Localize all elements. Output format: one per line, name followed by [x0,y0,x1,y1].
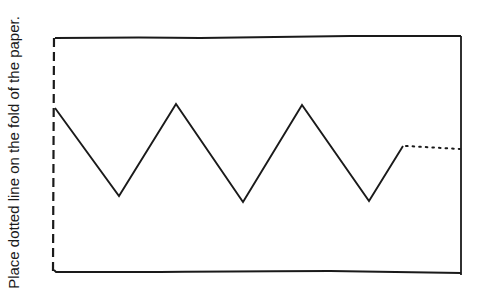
zigzag-cut-line [55,104,403,202]
frame-top-edge [55,36,461,38]
frame-bottom-edge [54,270,461,273]
paper-cutting-diagram [0,0,484,305]
dotted-extension-line [406,146,460,149]
fold-line-dashed [53,38,54,271]
